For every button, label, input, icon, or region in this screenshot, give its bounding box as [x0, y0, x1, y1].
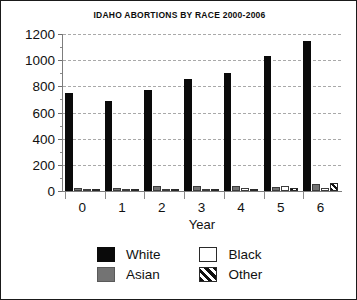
bar-group — [65, 34, 101, 191]
legend-swatch-black — [199, 247, 217, 262]
x-axis-tick-label: 4 — [226, 200, 256, 215]
bar-asian-0 — [74, 188, 82, 191]
bar-other-1 — [131, 189, 139, 192]
y-axis-tick-label: 800 — [9, 79, 55, 94]
bar-black-2 — [162, 189, 170, 192]
legend-item-white[interactable]: White — [97, 247, 185, 262]
bar-white-2 — [144, 90, 152, 191]
x-axis-tick — [144, 192, 145, 199]
bar-group — [144, 34, 180, 191]
y-axis-tick-label: 0 — [9, 184, 55, 199]
bar-black-5 — [281, 186, 289, 191]
bar-other-0 — [92, 189, 100, 192]
bar-group — [303, 34, 339, 191]
x-axis-title: Year — [63, 217, 341, 232]
x-axis-tick — [264, 192, 265, 199]
x-axis-tick — [65, 192, 66, 199]
bar-white-1 — [105, 101, 113, 191]
y-axis-tick-label: 400 — [9, 131, 55, 146]
chart-title: IDAHO ABORTIONS BY RACE 2000-2006 — [1, 10, 357, 20]
bar-other-2 — [171, 189, 179, 192]
legend-item-black[interactable]: Black — [199, 247, 287, 262]
y-axis-tick-label: 600 — [9, 105, 55, 120]
x-axis-tick-label: 0 — [67, 200, 97, 215]
x-axis-labels: 0123456 — [63, 200, 341, 218]
y-axis-tick-label: 1000 — [9, 53, 55, 68]
bar-white-3 — [184, 79, 192, 191]
x-axis-tick — [184, 192, 185, 199]
bar-black-6 — [321, 188, 329, 191]
bar-black-1 — [122, 189, 130, 192]
chart-figure: IDAHO ABORTIONS BY RACE 2000-2006 120010… — [0, 0, 357, 300]
bar-other-5 — [290, 188, 298, 191]
bar-white-0 — [65, 93, 73, 191]
x-axis-tick — [303, 192, 304, 199]
legend-label: Black — [228, 247, 261, 262]
legend-item-other[interactable]: Other — [199, 267, 287, 282]
bar-black-4 — [241, 188, 249, 191]
bar-white-5 — [264, 56, 272, 191]
legend-swatch-white — [97, 247, 115, 262]
bar-asian-1 — [113, 188, 121, 191]
bar-white-6 — [303, 41, 311, 191]
x-axis-tick-label: 2 — [147, 200, 177, 215]
x-axis-tick-label: 5 — [266, 200, 296, 215]
bar-white-4 — [224, 73, 232, 191]
plot-area — [63, 34, 341, 191]
bar-other-3 — [211, 189, 219, 192]
x-axis-tick — [105, 192, 106, 199]
legend-swatch-asian — [97, 267, 115, 282]
bar-other-6 — [330, 183, 338, 191]
y-axis-tick-label: 200 — [9, 157, 55, 172]
chart-legend: WhiteBlackAsianOther — [97, 247, 287, 282]
x-axis-ticks — [63, 192, 341, 200]
bar-asian-5 — [272, 187, 280, 191]
bar-group — [184, 34, 220, 191]
x-axis-tick-label: 1 — [107, 200, 137, 215]
x-axis-tick — [224, 192, 225, 199]
bar-asian-2 — [153, 186, 161, 191]
y-axis-labels: 120010008006004002000 — [5, 34, 55, 192]
legend-swatch-other — [199, 267, 217, 282]
legend-label: White — [126, 247, 161, 262]
bar-asian-6 — [312, 184, 320, 191]
bar-other-4 — [250, 189, 258, 192]
legend-item-asian[interactable]: Asian — [97, 267, 185, 282]
legend-label: Other — [228, 267, 262, 282]
y-axis-tick-label: 1200 — [9, 27, 55, 42]
bar-asian-4 — [232, 186, 240, 191]
x-axis-tick-label: 3 — [186, 200, 216, 215]
bar-black-0 — [83, 189, 91, 192]
x-axis-tick-label: 6 — [306, 200, 336, 215]
bar-group — [105, 34, 141, 191]
bar-group — [264, 34, 300, 191]
legend-label: Asian — [126, 267, 160, 282]
bar-asian-3 — [193, 186, 201, 191]
bar-group — [224, 34, 260, 191]
bar-black-3 — [202, 189, 210, 192]
